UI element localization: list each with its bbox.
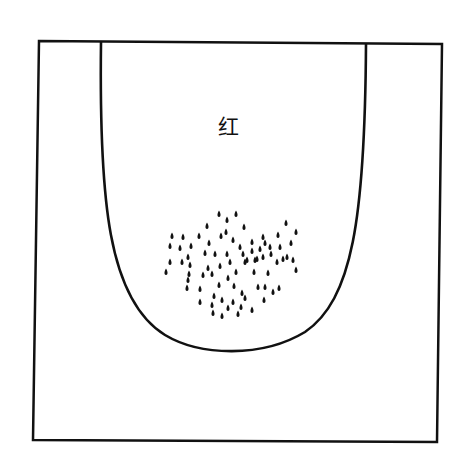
- dot: [211, 310, 214, 317]
- dot: [294, 229, 297, 236]
- dot: [269, 251, 272, 258]
- dot: [210, 271, 213, 278]
- dot: [217, 282, 220, 289]
- dot: [205, 223, 208, 230]
- dot: [266, 270, 269, 277]
- dot: [239, 304, 242, 311]
- dot: [170, 233, 173, 240]
- dot: [231, 237, 234, 244]
- dot: [262, 297, 265, 304]
- dot: [242, 224, 245, 231]
- dot: [213, 251, 216, 258]
- dot: [241, 251, 244, 258]
- dot: [294, 267, 297, 274]
- dot: [226, 275, 229, 282]
- dot: [187, 271, 190, 278]
- dot: [243, 295, 246, 302]
- dot: [263, 284, 266, 291]
- dot: [276, 232, 279, 239]
- dot: [277, 285, 280, 292]
- dot: [250, 239, 253, 246]
- diagram-canvas: [0, 0, 473, 465]
- dot: [217, 211, 220, 218]
- dot: [234, 211, 237, 218]
- dot: [281, 256, 284, 263]
- dot-cluster: [164, 211, 297, 320]
- dot: [164, 269, 167, 276]
- dot: [252, 269, 255, 276]
- dot: [234, 269, 237, 276]
- dot: [250, 248, 253, 255]
- dot: [226, 305, 229, 312]
- dot: [285, 254, 288, 261]
- dot: [224, 229, 227, 236]
- dot: [284, 220, 287, 227]
- dot: [225, 217, 228, 224]
- dot: [278, 244, 281, 251]
- dot: [201, 272, 204, 279]
- dot: [263, 240, 266, 247]
- dot: [210, 302, 213, 309]
- dot: [271, 289, 274, 296]
- dot: [225, 251, 228, 258]
- dot: [206, 265, 209, 272]
- dot: [258, 246, 261, 253]
- dot: [231, 299, 234, 306]
- dot: [168, 243, 171, 250]
- dot: [168, 259, 171, 266]
- dot: [228, 259, 231, 266]
- dot: [268, 244, 271, 251]
- dot: [250, 307, 253, 314]
- dot: [220, 313, 223, 320]
- dot: [291, 257, 294, 264]
- dot: [198, 286, 201, 293]
- dot: [240, 290, 243, 297]
- dot: [261, 254, 264, 261]
- dot: [238, 244, 241, 251]
- dot: [203, 250, 206, 257]
- dot: [181, 234, 184, 241]
- dot: [256, 284, 259, 291]
- dot: [261, 234, 264, 241]
- dot: [236, 311, 239, 318]
- dot: [232, 283, 235, 290]
- dot: [185, 285, 188, 292]
- dot: [218, 263, 221, 270]
- dot: [189, 243, 192, 250]
- dot: [180, 259, 183, 266]
- dot: [186, 277, 189, 284]
- dot: [198, 299, 201, 306]
- dot: [207, 240, 210, 247]
- dot: [289, 240, 292, 247]
- dot: [197, 233, 200, 240]
- dot: [212, 293, 215, 300]
- dot: [219, 233, 222, 240]
- dot: [188, 262, 191, 269]
- dot: [220, 297, 223, 304]
- dot: [275, 259, 278, 266]
- outer-frame: [33, 41, 442, 442]
- region-label: 红: [218, 110, 239, 140]
- dot: [186, 254, 189, 261]
- dot: [178, 245, 181, 252]
